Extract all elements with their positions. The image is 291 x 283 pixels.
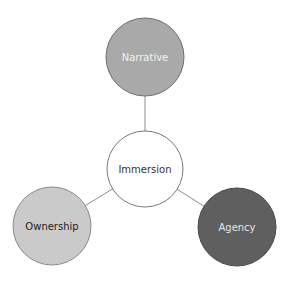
ownership-label: Ownership xyxy=(25,221,78,232)
agency-label: Agency xyxy=(218,222,255,233)
immersion-diagram: Narrative Immersion Ownership Agency xyxy=(0,0,291,283)
node-narrative: Narrative xyxy=(106,18,184,96)
node-agency: Agency xyxy=(198,188,276,266)
narrative-label: Narrative xyxy=(122,52,169,63)
node-immersion: Immersion xyxy=(107,131,183,207)
node-ownership: Ownership xyxy=(13,187,91,265)
immersion-label: Immersion xyxy=(118,164,171,175)
